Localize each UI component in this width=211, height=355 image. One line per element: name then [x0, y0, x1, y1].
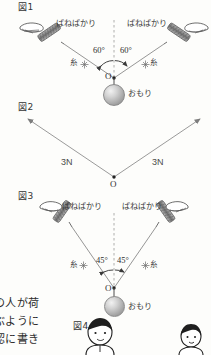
fig3-thread-mark-right	[142, 262, 150, 270]
fig1-thread-mark-left	[81, 61, 89, 69]
fig1-angle-left-label: 60°	[93, 46, 105, 55]
fig3-tag: 図3	[18, 192, 34, 201]
fig3-art	[40, 200, 188, 298]
fig3-spring-scale-left-label: ばねばかり	[62, 203, 102, 211]
fig1-thread-right-label: 糸	[150, 59, 157, 67]
fig2-force-vector-left	[28, 119, 114, 177]
fig1-weight-label: おもり	[128, 90, 152, 98]
fig3-angle-left-label: 45°	[96, 256, 108, 265]
body-text-line-3: 認に書き	[0, 334, 39, 345]
fig1-angle-arc-right	[115, 61, 127, 66]
fig1-origin-label: O	[105, 72, 112, 81]
fig1-art	[20, 20, 208, 86]
fig4-person-left	[86, 318, 114, 355]
fig3-spring-scale-right-label: ばねばかり	[122, 203, 162, 211]
worksheet-page: 図1 ばねばかり ばねばかり 糸 糸 60° 60° O おもり 図2 3N 3…	[0, 0, 211, 355]
fig4-person-right	[179, 324, 203, 355]
fig3-weight-label: おもり	[128, 303, 152, 311]
fig1-spring-scale-left-label: ばねばかり	[56, 20, 96, 28]
fig2-force-vector-right	[114, 119, 200, 177]
fig1-thread-mark-right	[142, 61, 150, 69]
fig1-angle-arc-left	[101, 61, 113, 66]
fig2-origin-label: O	[110, 180, 117, 189]
fig1-spring-scale-right-label: ばねばかり	[127, 20, 167, 28]
fig1-hand-left	[20, 23, 43, 33]
fig2-force-left-label: 3N	[61, 158, 73, 167]
fig3-thread-left-label: 糸	[70, 261, 77, 269]
fig2-art	[28, 119, 200, 179]
fig1-hand-right	[185, 23, 208, 33]
fig2-tag: 図2	[18, 103, 34, 112]
fig1-weight-ball	[103, 84, 125, 106]
fig2-force-right-label: 3N	[152, 158, 164, 167]
fig3-hand-right	[166, 202, 188, 212]
fig1-thread-left-label: 糸	[70, 59, 77, 67]
fig3-origin-label: O	[105, 284, 112, 293]
fig1-angle-right-label: 60°	[120, 46, 132, 55]
fig4-tag: 図4	[73, 322, 89, 331]
fig3-angle-right-label: 45°	[117, 256, 129, 265]
fig3-hand-left	[40, 202, 62, 212]
fig3-angle-arc-right	[115, 270, 124, 272]
fig1-tag: 図1	[18, 3, 34, 12]
fig3-thread-mark-left	[80, 262, 88, 270]
body-text-line-2: ぶように	[0, 316, 39, 327]
fig4-art	[86, 318, 203, 355]
fig3-weight-ball	[104, 296, 125, 317]
body-text-line-1: の人が荷	[0, 298, 39, 309]
fig3-thread-right-label: 糸	[150, 261, 157, 269]
fig3-angle-arc-left	[104, 270, 113, 272]
